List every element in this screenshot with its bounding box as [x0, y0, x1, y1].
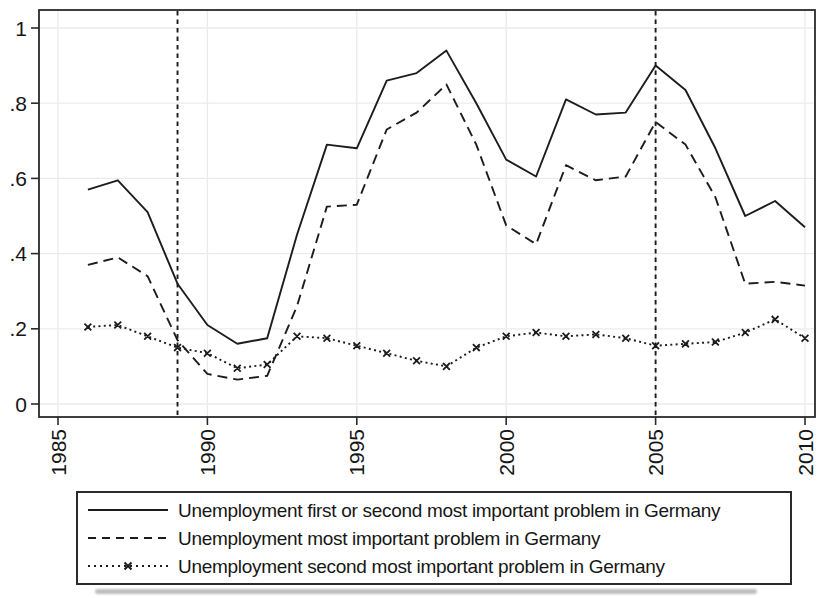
legend-item: Unemployment second most important probl… — [78, 552, 790, 580]
legend-label: Unemployment second most important probl… — [178, 557, 665, 576]
legend-item: Unemployment most important problem in G… — [78, 524, 790, 552]
series-line-dashed — [88, 84, 805, 379]
x-tick-label: 1990 — [196, 429, 219, 476]
series-line-solid — [88, 51, 805, 344]
x-tick-label: 1995 — [345, 429, 368, 476]
legend-item: Unemployment first or second most import… — [78, 496, 790, 524]
x-tick-label: 1985 — [47, 429, 70, 476]
y-tick-label: .4 — [9, 242, 27, 265]
legend-line-dashed-icon — [86, 530, 170, 546]
x-tick-label: 2005 — [644, 429, 667, 476]
series-x-markers — [84, 316, 808, 372]
line-chart: 0.2.4.6.81198519901995200020052010 — [0, 0, 819, 491]
legend-line-solid-icon — [86, 502, 170, 518]
y-tick-label: 1 — [15, 17, 27, 40]
plot-border — [39, 10, 815, 417]
legend-label: Unemployment most important problem in G… — [178, 529, 600, 548]
x-tick-label: 2010 — [794, 429, 817, 476]
x-tick-label: 2000 — [495, 429, 518, 476]
legend-line-dotted-x-icon — [86, 558, 170, 574]
y-tick-label: .6 — [9, 167, 27, 190]
figure: 0.2.4.6.81198519901995200020052010 Unemp… — [0, 0, 819, 598]
scan-artifact — [95, 589, 757, 594]
y-tick-label: .8 — [9, 92, 27, 115]
y-tick-label: 0 — [15, 393, 27, 416]
legend-label: Unemployment first or second most import… — [178, 501, 720, 520]
legend: Unemployment first or second most import… — [76, 491, 792, 585]
y-tick-label: .2 — [9, 317, 27, 340]
